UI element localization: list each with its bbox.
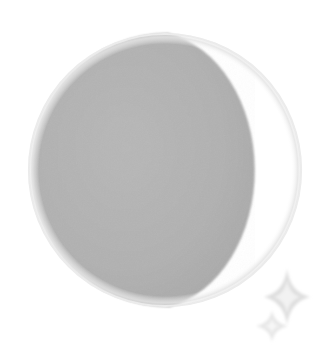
moon-limb-highlight — [28, 33, 302, 307]
moon-phase-illustration: A circular moon with the left portion sh… — [0, 0, 324, 358]
moon-phase-canvas — [0, 0, 324, 358]
